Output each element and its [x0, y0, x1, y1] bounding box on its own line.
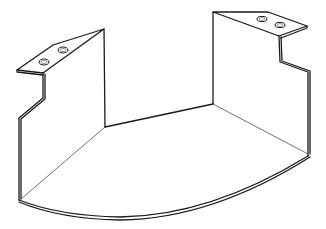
right-tab-hole-1-icon — [257, 16, 267, 21]
left-wall-outer-edge — [19, 73, 43, 200]
curved-floor-panel — [19, 104, 308, 216]
left-tab-hole-2-icon — [58, 47, 68, 53]
right-wall-thickness — [281, 37, 310, 154]
left-tab-hole-1-icon — [39, 59, 49, 65]
bracket-drawing: U-shaped sheet metal bracket with curved… — [0, 0, 326, 229]
right-tab-hole-2-icon — [275, 22, 285, 27]
left-mounting-tab — [17, 29, 104, 75]
left-wall-thickness — [21, 74, 45, 199]
bracket-illustration — [0, 0, 326, 229]
right-tab-outline — [213, 12, 307, 36]
right-mounting-tab — [213, 12, 307, 38]
right-wall-outer-edge — [279, 36, 308, 156]
